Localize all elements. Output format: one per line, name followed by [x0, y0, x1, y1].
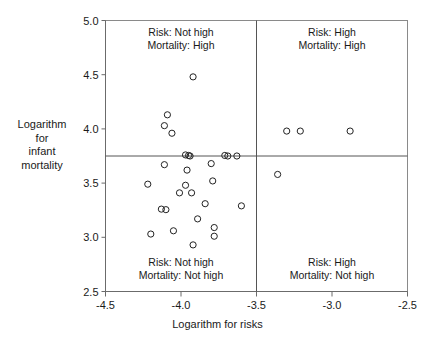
data-point — [195, 216, 201, 222]
data-point — [202, 201, 208, 207]
x-axis-tick-label: -3.5 — [247, 299, 266, 311]
quadrant-divider-lines — [106, 21, 408, 292]
quadrant-label-top-right: Mortality: High — [298, 39, 365, 51]
quadrant-label-bottom-left: Mortality: Not high — [139, 269, 224, 281]
y-axis-tick-label: 5.0 — [83, 15, 98, 27]
data-point — [164, 112, 170, 118]
data-points — [145, 74, 354, 248]
quadrant-label-top-right: Risk: High — [308, 26, 356, 38]
quadrant-label-bottom-right: Risk: High — [308, 256, 356, 268]
data-point — [347, 128, 353, 134]
data-point — [238, 203, 244, 209]
data-point — [210, 178, 216, 184]
data-point — [208, 160, 214, 166]
y-axis-title: Logarithm for infant mortality — [6, 118, 78, 172]
data-point — [190, 242, 196, 248]
data-point — [182, 182, 188, 188]
y-axis-title-line-3: infant — [6, 145, 78, 159]
data-point — [148, 231, 154, 237]
data-point — [211, 224, 217, 230]
y-axis-tick-label: 2.5 — [83, 286, 98, 298]
x-axis-tick-label: -3.0 — [323, 299, 342, 311]
y-axis-tick-label: 4.0 — [83, 123, 98, 135]
data-point — [169, 130, 175, 136]
quadrant-label-top-left: Risk: Not high — [148, 26, 214, 38]
data-point — [275, 171, 281, 177]
data-point — [170, 228, 176, 234]
data-point — [188, 190, 194, 196]
x-axis-tick-label: -4.5 — [96, 299, 115, 311]
data-point — [184, 167, 190, 173]
data-point — [211, 233, 217, 239]
data-point — [161, 123, 167, 129]
y-axis-title-line-1: Logarithm — [6, 118, 78, 132]
data-point — [145, 181, 151, 187]
plot-canvas: 2.53.03.54.04.55.0 -4.5-4.0-3.5-3.0-2.5 … — [0, 0, 435, 347]
quadrant-label-top-left: Mortality: High — [147, 39, 214, 51]
data-point — [176, 190, 182, 196]
data-point — [297, 128, 303, 134]
y-axis: 2.53.03.54.04.55.0 — [83, 15, 105, 298]
data-point — [163, 207, 169, 213]
data-point — [284, 128, 290, 134]
x-axis-tick-label: -2.5 — [398, 299, 417, 311]
x-axis: -4.5-4.0-3.5-3.0-2.5 — [96, 292, 417, 311]
quadrant-label-bottom-left: Risk: Not high — [148, 256, 214, 268]
x-axis-tick-label: -4.0 — [172, 299, 191, 311]
y-axis-title-line-4: mortality — [6, 159, 78, 173]
scatter-plot-figure: Logarithm for infant mortality Logarithm… — [0, 0, 435, 347]
quadrant-label-bottom-right: Mortality: Not high — [290, 269, 375, 281]
y-axis-tick-label: 4.5 — [83, 69, 98, 81]
data-point — [190, 74, 196, 80]
data-point — [161, 162, 167, 168]
y-axis-tick-label: 3.0 — [83, 231, 98, 243]
x-axis-title: Logarithm for risks — [0, 318, 435, 330]
y-axis-tick-label: 3.5 — [83, 177, 98, 189]
y-axis-title-line-2: for — [6, 132, 78, 146]
